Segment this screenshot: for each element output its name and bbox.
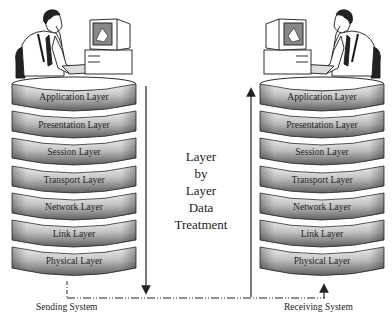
center-caption-line: Data [160, 199, 242, 216]
sending-layer-link: Link Layer [12, 229, 136, 239]
receiving-system-label: Receiving System [284, 302, 353, 312]
center-caption-line: Layer [160, 182, 242, 199]
sending-layer-transport: Transport Layer [12, 175, 136, 185]
center-caption-line: Treatment [160, 216, 242, 233]
center-caption: Layer by Layer Data Treatment [160, 148, 242, 233]
receiving-layer-application: Application Layer [260, 92, 384, 102]
sending-layer-presentation: Presentation Layer [12, 120, 136, 130]
center-caption-line: by [160, 165, 242, 182]
sending-layer-session: Session Layer [12, 147, 136, 157]
osi-diagram: Application Layer Presentation Layer Ses… [0, 0, 392, 321]
person-at-computer-icon [16, 10, 132, 78]
receiving-layer-physical: Physical Layer [260, 256, 384, 266]
sending-layer-physical: Physical Layer [12, 256, 136, 266]
receiving-layer-transport: Transport Layer [260, 175, 384, 185]
sending-system-label: Sending System [36, 302, 98, 312]
person-at-computer-icon [264, 10, 380, 78]
sending-layer-network: Network Layer [12, 202, 136, 212]
receiving-layer-network: Network Layer [260, 202, 384, 212]
receiving-layer-presentation: Presentation Layer [260, 120, 384, 130]
center-caption-line: Layer [160, 148, 242, 165]
receiving-layer-link: Link Layer [260, 229, 384, 239]
sending-layer-application: Application Layer [12, 92, 136, 102]
receiving-layer-session: Session Layer [260, 147, 384, 157]
